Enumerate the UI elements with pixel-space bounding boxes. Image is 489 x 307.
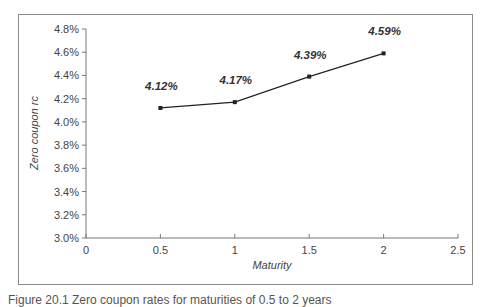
y-tick-label: 4.6% [54,46,79,58]
figure-caption: Figure 20.1 Zero coupon rates for maturi… [8,293,332,307]
zero-rate-series: 4.12%4.17%4.39%4.59% [144,25,401,110]
y-tick-label: 3.0% [54,232,79,244]
x-tick-label: 2.5 [450,244,465,256]
x-axis: 00.511.522.5 [83,234,466,256]
y-tick-label: 3.2% [54,209,79,221]
data-label: 4.12% [144,80,178,92]
data-label: 4.17% [218,74,252,86]
data-point-marker [233,100,237,104]
y-tick-label: 3.8% [54,139,79,151]
data-label: 4.39% [293,49,327,61]
y-tick-label: 4.0% [54,116,79,128]
y-tick-label: 3.6% [54,162,79,174]
y-axis-title: Zero coupon rc [28,96,40,171]
y-tick-label: 3.4% [54,186,79,198]
data-label: 4.59% [367,25,401,37]
x-tick-label: 0.5 [153,244,168,256]
x-tick-label: 2 [381,244,387,256]
y-tick-label: 4.4% [54,69,79,81]
x-tick-label: 1.5 [302,244,317,256]
data-point-marker [158,106,162,110]
data-point-marker [382,51,386,55]
y-tick-label: 4.8% [54,23,79,35]
y-tick-label: 4.2% [54,93,79,105]
y-axis: 3.0%3.2%3.4%3.6%3.8%4.0%4.2%4.4%4.6%4.8% [54,23,86,244]
x-tick-label: 0 [83,244,89,256]
x-tick-label: 1 [232,244,238,256]
data-point-marker [307,75,311,79]
x-axis-title: Maturity [252,259,293,271]
